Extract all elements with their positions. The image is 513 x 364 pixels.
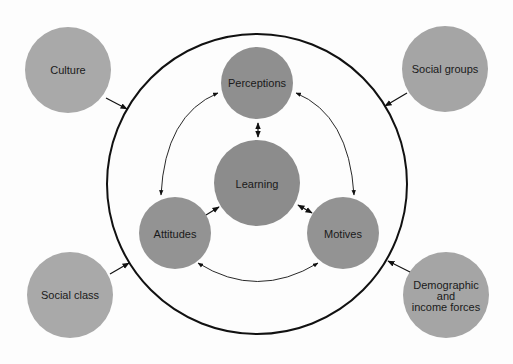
label-social-class: Social class — [41, 290, 99, 301]
edge-perceptions-motives — [296, 93, 354, 195]
label-learning: Learning — [236, 179, 279, 190]
label-attitudes: Attitudes — [154, 229, 197, 240]
label-demographic-line-3: income forces — [406, 302, 486, 313]
label-social-groups: Social groups — [412, 64, 479, 75]
label-motives: Motives — [324, 229, 362, 240]
edge-culture — [106, 98, 127, 109]
label-perceptions: Perceptions — [228, 78, 286, 89]
edge-attitudes-motives — [198, 263, 318, 282]
edge-learning-motives — [298, 205, 312, 213]
consumer-behavior-diagram: Culture Social groups Social class Demog… — [0, 0, 513, 364]
edge-demographic — [388, 261, 410, 272]
label-demographic: Demographic and income forces — [406, 280, 486, 313]
edge-social-class — [110, 263, 129, 274]
label-culture: Culture — [50, 65, 85, 76]
edge-perceptions-attitudes — [161, 93, 218, 195]
edge-social-groups — [385, 93, 407, 106]
edge-attitudes-learning — [206, 207, 219, 215]
